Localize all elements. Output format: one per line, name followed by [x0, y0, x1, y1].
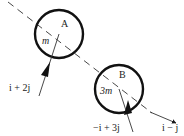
direction-label: i − j	[162, 122, 178, 133]
sphere-b-mass: 3m	[99, 85, 112, 96]
sphere-b-label: B	[119, 69, 126, 80]
collision-diagram: A m B 3m i + 2j −i + 3j i − j	[0, 0, 184, 136]
line-of-centres	[8, 2, 152, 113]
sphere-a-label: A	[61, 18, 69, 29]
velocity-a-label: i + 2j	[9, 82, 30, 93]
velocity-b-label: −i + 3j	[93, 122, 120, 133]
sphere-a-mass: m	[42, 35, 49, 46]
velocity-a-arrowhead	[41, 62, 50, 77]
